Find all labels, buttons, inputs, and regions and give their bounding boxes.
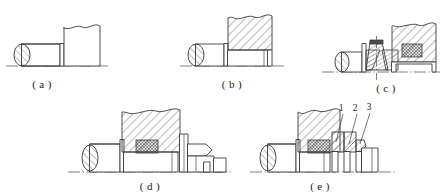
panel-e: 1 2 3 ( e ): [250, 102, 396, 193]
panel-c-caption: ( c ): [376, 82, 396, 95]
panel-a-shaft: [14, 44, 60, 66]
panel-c-mesh-seal: [402, 44, 422, 57]
panel-e-mesh-seal: [308, 140, 330, 153]
panel-a-caption: ( a ): [32, 78, 52, 91]
callout-label-2: 2: [353, 103, 358, 113]
figure-root: ( a ) ( b ): [0, 0, 446, 196]
panel-d-caption: ( d ): [140, 180, 160, 193]
leader-line-3: [360, 113, 370, 144]
panel-b-caption: ( b ): [222, 78, 242, 91]
panel-a-shaft-section: [14, 44, 30, 66]
panel-b-housing-block: [228, 15, 272, 50]
panel-a-housing: [60, 25, 100, 66]
callout-label-1: 1: [339, 103, 344, 113]
panel-c-shaft: [335, 52, 362, 72]
panel-b-shaft-section: [188, 44, 204, 66]
panel-c-shaft-section: [335, 52, 349, 72]
panel-d: ( d ): [68, 109, 232, 193]
panel-e-shaft: [260, 144, 298, 172]
panel-a: ( a ): [6, 25, 108, 91]
panel-b-housing-section: [228, 15, 272, 50]
panel-e-caption: ( e ): [310, 180, 330, 193]
callout-label-3: 3: [367, 102, 372, 112]
panel-d-stepped-gland: [188, 144, 226, 172]
panel-a-body: [64, 25, 100, 66]
panel-e-shaft-section: [260, 145, 276, 171]
panel-d-mesh-seal: [136, 140, 158, 153]
technical-drawing-canvas: ( a ) ( b ): [0, 0, 446, 196]
panel-c-flange-legs: [392, 62, 436, 72]
panel-b-shaft: [188, 44, 224, 66]
panel-d-shaft: [82, 144, 122, 172]
panel-b: ( b ): [180, 15, 285, 91]
panel-c: ( c ): [322, 23, 440, 95]
panel-d-shaft-section: [82, 145, 98, 171]
panel-b-flange-leg: [268, 50, 272, 66]
